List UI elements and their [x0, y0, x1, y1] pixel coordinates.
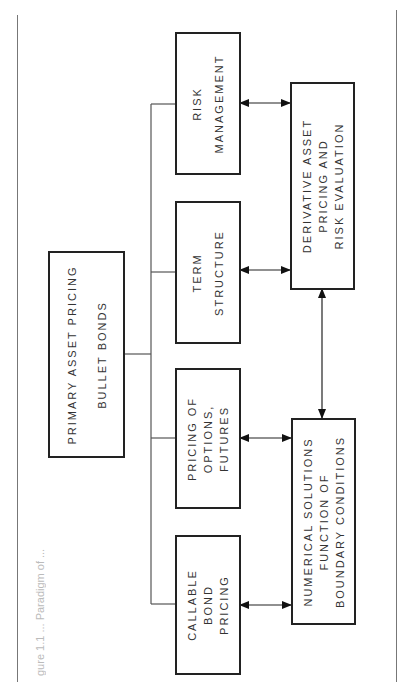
box-label: PRICING AND [315, 119, 331, 253]
numerical-solutions-box: NUMERICAL SOLUTIONS FUNCTION OF BOUNDARY… [291, 418, 356, 625]
box-label: FUNCTION OF [316, 435, 332, 607]
box-label: MANAGEMENT [211, 54, 227, 153]
primary-asset-pricing-box: PRIMARY ASSET PRICING BULLET BONDS [48, 251, 125, 458]
root-subtitle: BULLET BONDS [94, 265, 110, 444]
risk-management-box: RISK MANAGEMENT [175, 32, 241, 175]
box-label: OPTIONS, [200, 396, 216, 480]
box-label: DERIVATIVE ASSET [299, 119, 315, 253]
root-title: PRIMARY ASSET PRICING [64, 265, 80, 444]
box-label: PRICING OF [184, 396, 200, 480]
derivative-asset-pricing-box: DERIVATIVE ASSET PRICING AND RISK EVALUA… [290, 82, 355, 290]
box-label: BOUNDARY CONDITIONS [332, 435, 348, 607]
box-label: NUMERICAL SOLUTIONS [300, 435, 316, 607]
callable-bond-pricing-box: CALLABLE BOND PRICING [175, 535, 241, 675]
term-structure-box: TERM STRUCTURE [175, 201, 241, 344]
box-label: RISK [189, 54, 205, 153]
box-label: PRICING [216, 569, 232, 641]
pricing-options-futures-box: PRICING OF OPTIONS, FUTURES [175, 368, 241, 509]
box-label: CALLABLE [184, 569, 200, 641]
box-label: BOND [200, 569, 216, 641]
box-label: STRUCTURE [211, 230, 227, 316]
box-label: TERM [189, 230, 205, 316]
box-label: FUTURES [216, 396, 232, 480]
box-label: RISK EVALUATION [331, 119, 347, 253]
